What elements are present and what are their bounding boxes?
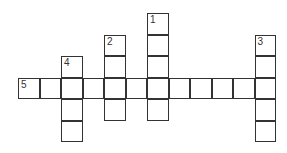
crossword-cell[interactable] bbox=[61, 78, 83, 100]
crossword-grid: 12345 bbox=[0, 0, 287, 153]
crossword-cell[interactable] bbox=[255, 56, 277, 78]
crossword-cell[interactable] bbox=[255, 121, 277, 143]
crossword-cell[interactable]: 2 bbox=[104, 35, 126, 57]
crossword-cell[interactable] bbox=[147, 56, 169, 78]
crossword-cell[interactable]: 3 bbox=[255, 35, 277, 57]
crossword-cell[interactable] bbox=[104, 78, 126, 100]
crossword-cell[interactable] bbox=[61, 99, 83, 121]
crossword-cell[interactable]: 5 bbox=[18, 78, 40, 100]
crossword-cell[interactable] bbox=[147, 78, 169, 100]
crossword-cell[interactable] bbox=[40, 78, 62, 100]
crossword-cell[interactable] bbox=[233, 78, 255, 100]
clue-number: 1 bbox=[150, 14, 156, 25]
crossword-cell[interactable] bbox=[147, 35, 169, 57]
crossword-cell[interactable] bbox=[147, 99, 169, 121]
crossword-cell[interactable] bbox=[126, 78, 148, 100]
crossword-cell[interactable]: 1 bbox=[147, 13, 169, 35]
clue-number: 5 bbox=[21, 79, 27, 90]
crossword-cell[interactable] bbox=[61, 121, 83, 143]
crossword-cell[interactable] bbox=[83, 78, 105, 100]
crossword-cell[interactable] bbox=[190, 78, 212, 100]
crossword-cell[interactable]: 4 bbox=[61, 56, 83, 78]
clue-number: 3 bbox=[258, 36, 264, 47]
clue-number: 2 bbox=[107, 36, 113, 47]
crossword-cell[interactable] bbox=[212, 78, 234, 100]
crossword-cell[interactable] bbox=[104, 99, 126, 121]
clue-number: 4 bbox=[64, 57, 70, 68]
crossword-cell[interactable] bbox=[255, 78, 277, 100]
crossword-cell[interactable] bbox=[169, 78, 191, 100]
crossword-cell[interactable] bbox=[255, 99, 277, 121]
crossword-cell[interactable] bbox=[104, 56, 126, 78]
